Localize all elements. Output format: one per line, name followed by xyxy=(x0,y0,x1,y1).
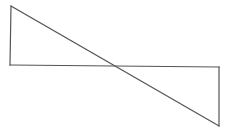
diagram-lines xyxy=(10,6,219,126)
diagonal-line xyxy=(11,6,219,126)
left-vertical-line xyxy=(10,6,11,65)
bowtie-diagram xyxy=(0,0,231,135)
